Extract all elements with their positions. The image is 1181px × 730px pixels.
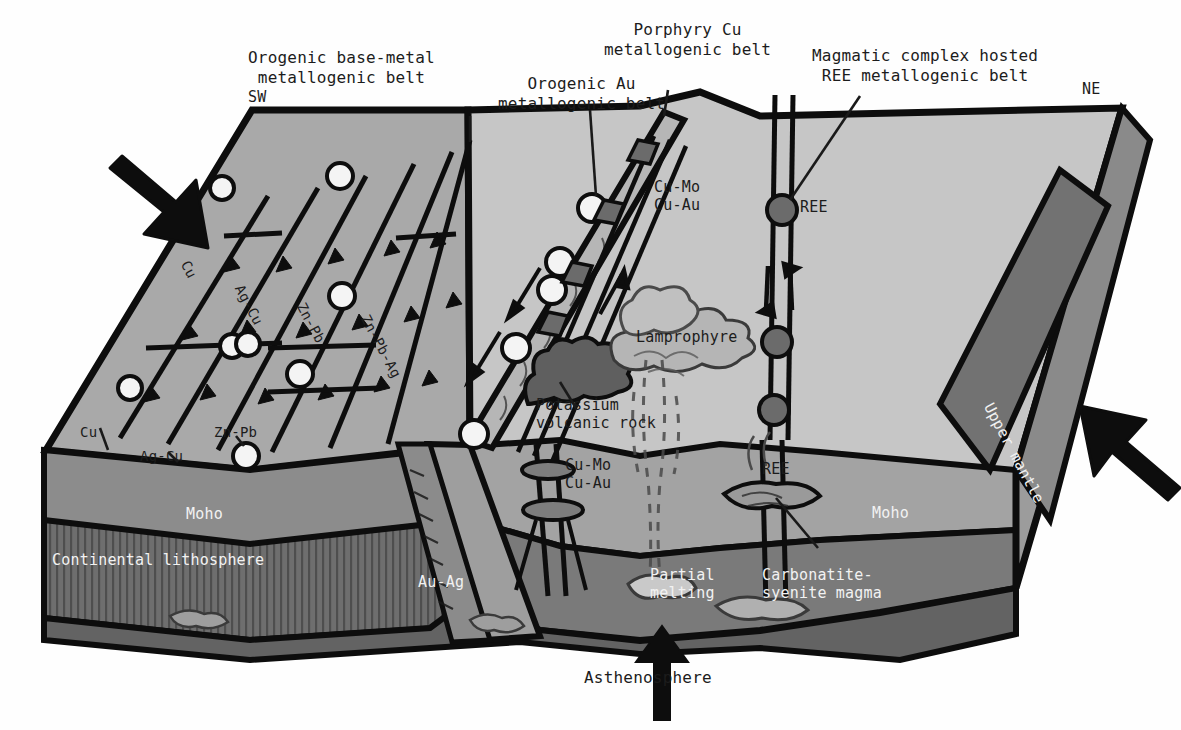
orogenic-au: Orogenic Au metallogenic belt [498, 74, 665, 113]
partial-melting: Partial melting [650, 566, 715, 603]
figure-canvas: Orogenic base-metal metallogenic beltOro… [0, 0, 1181, 730]
ree-lower: REE [762, 460, 790, 478]
cu-mo-cu-au-lower: Cu-Mo Cu-Au [565, 456, 611, 493]
carbonatite-magma: Carbonatite- syenite magma [762, 566, 882, 603]
moho-left: Moho [186, 505, 223, 523]
compass-sw: SW [248, 88, 266, 106]
compass-ne: NE [1082, 80, 1100, 98]
ree-upper: REE [800, 198, 828, 216]
magmatic-ree: Magmatic complex hosted REE metallogenic… [812, 46, 1038, 85]
edge-label-ag-cu: Ag-Cu [140, 448, 183, 465]
continental-lithosphere: Continental lithosphere [52, 551, 264, 569]
cu-mo-cu-au-upper: Cu-Mo Cu-Au [654, 178, 700, 215]
porphyry-cu: Porphyry Cu metallogenic belt [604, 20, 771, 59]
edge-label-cu: Cu [80, 424, 97, 441]
convergence-arrow-sw [110, 156, 208, 248]
moho-right: Moho [872, 504, 909, 522]
orogenic-base-metal: Orogenic base-metal metallogenic belt [248, 48, 435, 87]
convergence-arrow-ne [1080, 406, 1180, 500]
potassium-rock: Potassium volcanic rock [536, 396, 656, 433]
edge-label-zn-pb: Zn-Pb [214, 424, 257, 441]
lamprophyre: Lamprophyre [636, 328, 738, 346]
asthenosphere: Asthenosphere [584, 668, 712, 688]
au-ag: Au-Ag [418, 573, 464, 591]
